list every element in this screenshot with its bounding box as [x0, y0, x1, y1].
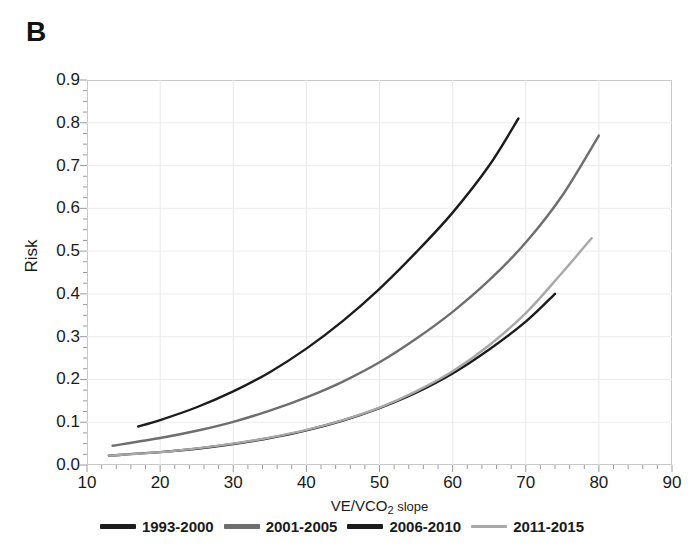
legend-item[interactable]: 2011-2015 — [471, 518, 584, 535]
legend-item[interactable]: 2006-2010 — [347, 518, 461, 535]
legend-item[interactable]: 2001-2005 — [224, 518, 338, 535]
y-tick-label: 0.8 — [56, 113, 80, 133]
x-axis-title-prefix: VE/VCO — [331, 497, 388, 514]
y-tick-label: 0.3 — [56, 327, 80, 347]
y-tick-label: 0.0 — [56, 455, 80, 475]
legend-label: 2006-2010 — [389, 518, 461, 535]
y-tick-label: 0.9 — [56, 70, 80, 90]
chart-canvas — [87, 80, 672, 465]
y-tick-label: 0.2 — [56, 369, 80, 389]
legend-label: 2001-2005 — [266, 518, 338, 535]
x-tick-label: 70 — [516, 473, 535, 493]
y-tick-label: 0.4 — [56, 284, 80, 304]
x-axis-tick-labels: 102030405060708090 — [87, 473, 672, 497]
legend-label: 2011-2015 — [513, 518, 584, 535]
x-axis-title-subscript: 2 — [387, 504, 393, 516]
figure-panel-b: B 0.00.10.20.30.40.50.60.70.80.9 Risk 10… — [0, 0, 694, 550]
x-tick-label: 90 — [663, 473, 682, 493]
chart-legend: 1993-20002001-20052006-20102011-2015 — [0, 518, 694, 535]
y-tick-label: 0.1 — [56, 412, 80, 432]
x-tick-label: 50 — [370, 473, 389, 493]
legend-swatch — [224, 524, 260, 529]
legend-swatch — [100, 524, 136, 529]
panel-label: B — [26, 18, 46, 46]
plot-area — [87, 80, 672, 465]
x-tick-label: 20 — [151, 473, 170, 493]
y-axis-title: Risk — [22, 216, 42, 296]
x-axis-title-suffix: slope — [394, 499, 429, 514]
legend-label: 1993-2000 — [142, 518, 214, 535]
x-tick-label: 40 — [297, 473, 316, 493]
x-axis-title: VE/VCO2 slope — [87, 497, 672, 514]
series-line-4 — [109, 238, 592, 455]
y-tick-label: 0.7 — [56, 156, 80, 176]
axis-ticks — [80, 80, 672, 472]
series-line-1 — [138, 119, 518, 427]
legend-swatch — [471, 525, 507, 528]
series-line-3 — [109, 294, 555, 456]
x-tick-label: 60 — [443, 473, 462, 493]
legend-item[interactable]: 1993-2000 — [100, 518, 214, 535]
x-tick-label: 80 — [589, 473, 608, 493]
y-tick-label: 0.5 — [56, 241, 80, 261]
legend-swatch — [347, 524, 383, 529]
y-tick-label: 0.6 — [56, 198, 80, 218]
x-tick-label: 30 — [224, 473, 243, 493]
x-tick-label: 10 — [78, 473, 97, 493]
